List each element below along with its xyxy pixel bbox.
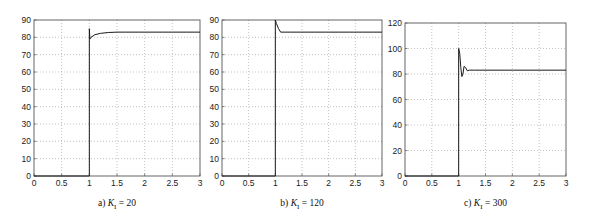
x-tick-label: 1 — [273, 178, 278, 188]
y-tick-label: 80 — [210, 32, 220, 42]
y-tick-label: 10 — [22, 154, 32, 164]
chart-caption: b) KI = 120 — [280, 198, 324, 211]
y-tick-label: 0 — [214, 171, 219, 181]
y-tick-label: 30 — [210, 119, 220, 129]
x-tick-label: 2 — [510, 178, 515, 188]
x-tick-label: 0.5 — [56, 178, 68, 188]
grid-lines — [222, 20, 382, 176]
chart-panel-2: 00.511.522.530102030405060708090b) KI = … — [210, 15, 385, 211]
y-tick-label: 20 — [22, 136, 32, 146]
x-tick-label: 1.5 — [480, 178, 492, 188]
x-tick-label: 0.5 — [426, 178, 438, 188]
y-tick-label: 60 — [393, 95, 403, 105]
y-tick-label: 40 — [210, 102, 220, 112]
y-tick-label: 90 — [210, 15, 220, 25]
y-tick-label: 120 — [388, 18, 402, 28]
chart-caption: a) KI = 20 — [98, 198, 136, 211]
x-tick-label: 1 — [456, 178, 461, 188]
y-tick-label: 20 — [210, 136, 220, 146]
y-tick-label: 10 — [210, 154, 220, 164]
x-tick-label: 0 — [220, 178, 225, 188]
x-tick-label: 0 — [403, 178, 408, 188]
figure-canvas: 00.511.522.530102030405060708090a) KI = … — [0, 0, 590, 220]
y-tick-label: 50 — [210, 84, 220, 94]
x-tick-label: 2.5 — [349, 178, 361, 188]
y-tick-label: 30 — [22, 119, 32, 129]
x-tick-label: 3 — [380, 178, 385, 188]
y-tick-label: 40 — [22, 102, 32, 112]
y-tick-label: 0 — [397, 171, 402, 181]
y-tick-label: 70 — [22, 50, 32, 60]
y-tick-label: 70 — [210, 50, 220, 60]
y-tick-label: 20 — [393, 146, 403, 156]
x-tick-label: 1.5 — [111, 178, 123, 188]
x-tick-label: 0.5 — [243, 178, 255, 188]
response-line — [405, 49, 566, 177]
chart-panel-1: 00.511.522.530102030405060708090a) KI = … — [22, 15, 203, 211]
x-tick-label: 3 — [198, 178, 203, 188]
grid-lines — [405, 23, 566, 176]
x-tick-label: 2.5 — [533, 178, 545, 188]
y-tick-label: 100 — [388, 44, 402, 54]
grid-lines — [34, 20, 200, 176]
x-tick-label: 2.5 — [166, 178, 178, 188]
y-tick-label: 50 — [22, 84, 32, 94]
x-tick-label: 0 — [32, 178, 37, 188]
y-tick-label: 60 — [210, 67, 220, 77]
y-tick-label: 60 — [22, 67, 32, 77]
x-tick-label: 3 — [564, 178, 569, 188]
y-tick-label: 90 — [22, 15, 32, 25]
chart-panel-3: 00.511.522.53020406080100120c) KI = 300 — [388, 18, 569, 211]
x-tick-label: 1 — [87, 178, 92, 188]
y-tick-label: 80 — [393, 69, 403, 79]
y-tick-label: 40 — [393, 120, 403, 130]
x-tick-label: 1.5 — [296, 178, 308, 188]
x-tick-label: 2 — [142, 178, 147, 188]
y-tick-label: 0 — [26, 171, 31, 181]
y-tick-label: 80 — [22, 32, 32, 42]
x-tick-label: 2 — [326, 178, 331, 188]
chart-caption: c) KI = 300 — [464, 198, 507, 211]
